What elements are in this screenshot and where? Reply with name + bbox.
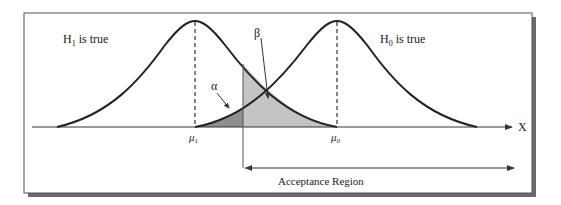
beta-label: β: [254, 26, 260, 40]
acceptance-region-label: Acceptance Region: [278, 175, 364, 187]
h1-label: H1 is true: [63, 32, 108, 48]
hypothesis-test-diagram: H1 is true H0 is true α β μ1 μ0 X Accept…: [0, 0, 561, 205]
h0-label: H0 is true: [380, 32, 425, 48]
alpha-label: α: [211, 79, 218, 93]
x-axis-label: X: [518, 120, 527, 134]
